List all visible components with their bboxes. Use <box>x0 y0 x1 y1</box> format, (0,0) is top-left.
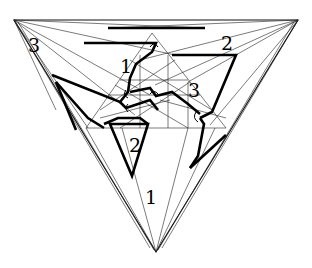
outer-triangle <box>14 20 298 252</box>
thick-paths <box>52 28 236 176</box>
label-2-top-right: 2 <box>221 32 233 54</box>
label-1-bottom: 1 <box>145 186 157 208</box>
fan-lines-top-right <box>110 20 298 125</box>
inner-mesh <box>86 33 226 128</box>
label-3-top-left: 3 <box>28 34 40 56</box>
label-3-center-right: 3 <box>188 79 200 101</box>
triangle-diagram: 3 2 1 3 2 1 <box>0 0 312 268</box>
label-2-inner-triangle: 2 <box>129 134 141 156</box>
label-1-center: 1 <box>120 55 132 77</box>
fan-lines-top-left <box>14 20 205 128</box>
